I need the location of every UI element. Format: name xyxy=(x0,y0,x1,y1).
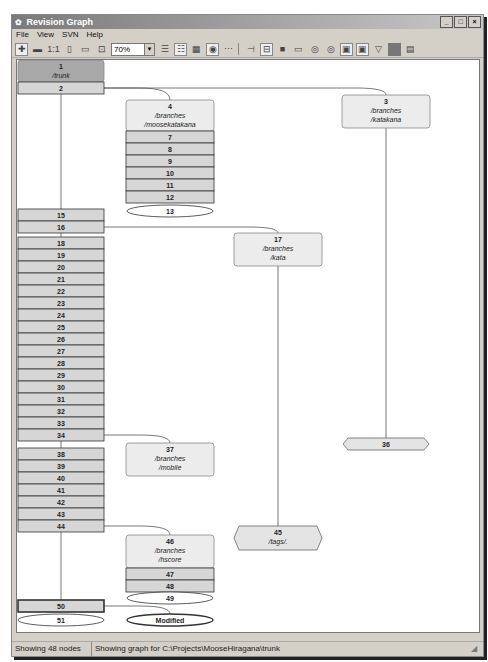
remove-deleted-icon[interactable]: ▭ xyxy=(292,43,305,56)
trunk-revision-node[interactable]: 32 xyxy=(18,405,104,417)
trunk-revision-node[interactable]: 28 xyxy=(18,357,104,369)
status-graph-path: Showing graph for C:\Projects\MooseHirag… xyxy=(92,642,471,656)
resize-grip-icon[interactable]: ◢ xyxy=(471,642,483,656)
branch-revision-node[interactable]: 9 xyxy=(126,155,214,167)
graph-canvas[interactable]: 1/trunk215161819202122232425262728293031… xyxy=(16,59,480,633)
close-button[interactable]: × xyxy=(468,16,481,28)
minimize-button[interactable]: _ xyxy=(440,16,453,28)
branch-tail-tag[interactable]: 36 xyxy=(343,438,429,450)
menu-file[interactable]: File xyxy=(16,29,29,41)
branch-path: /branches xyxy=(154,112,186,119)
align-trees-icon[interactable]: ▦ xyxy=(190,43,203,56)
revision-number: 46 xyxy=(166,538,174,545)
trunk-revision-node[interactable]: 24 xyxy=(18,309,104,321)
trunk-revision-node[interactable]: 33 xyxy=(18,417,104,429)
title-bar[interactable]: ✿ Revision Graph _ □ × xyxy=(12,15,483,29)
revision-graph-window: ✿ Revision Graph _ □ × File View SVN Hel… xyxy=(11,14,484,657)
trunk-revision-node[interactable]: 50 xyxy=(18,600,104,612)
revision-number: 17 xyxy=(274,236,282,243)
branch-head-moosekatakana[interactable]: 4/branches/moosekatakana xyxy=(126,100,214,131)
trunk-revision-node[interactable]: 43 xyxy=(18,508,104,520)
trunk-revision-node[interactable]: 30 xyxy=(18,381,104,393)
revision-graph: 1/trunk215161819202122232425262728293031… xyxy=(17,60,479,632)
trunk-revision-node[interactable]: 22 xyxy=(18,285,104,297)
color-icon[interactable] xyxy=(388,43,401,56)
trunk-head-node[interactable]: 1/trunk xyxy=(18,60,104,82)
group-branches-icon[interactable]: ☰ xyxy=(158,43,171,56)
zoom-height-icon[interactable]: ▯ xyxy=(63,43,76,56)
trunk-revision-node[interactable]: 18 xyxy=(18,237,104,249)
zoom-width-icon[interactable]: ▭ xyxy=(79,43,92,56)
branch-path: /branches xyxy=(262,245,294,252)
trunk-revision-node[interactable]: 41 xyxy=(18,484,104,496)
show-tree-stripes-icon[interactable]: ▣ xyxy=(356,43,369,56)
zoom-100-icon[interactable]: 1:1 xyxy=(47,43,60,56)
fold-tags-icon[interactable]: ⊟ xyxy=(260,43,273,56)
oldest-on-top-icon[interactable]: ☷ xyxy=(174,43,187,56)
trunk-revision-node[interactable]: 31 xyxy=(18,393,104,405)
revision-number: 44 xyxy=(57,523,65,530)
zoom-fit-icon[interactable]: ⊡ xyxy=(95,43,108,56)
branch-head-hscore[interactable]: 46/branches/hscore xyxy=(126,535,214,568)
revision-number: 8 xyxy=(168,146,172,153)
trunk-revision-node[interactable]: 16 xyxy=(18,221,104,233)
working-copy-node[interactable]: 51 xyxy=(18,614,104,626)
branch-path: /branches xyxy=(154,455,186,462)
menu-view[interactable]: View xyxy=(37,29,54,41)
trunk-revision-node[interactable]: 34 xyxy=(18,429,104,441)
menu-svn[interactable]: SVN xyxy=(62,29,78,41)
trunk-revision-node[interactable]: 40 xyxy=(18,472,104,484)
show-wc-mods-icon[interactable]: ◎ xyxy=(324,43,337,56)
trunk-revision-node[interactable]: 19 xyxy=(18,249,104,261)
trunk-revision-node[interactable]: 42 xyxy=(18,496,104,508)
trunk-revision-node[interactable]: 27 xyxy=(18,345,104,357)
revision-number: 23 xyxy=(57,300,65,307)
revision-number: 51 xyxy=(57,617,65,624)
tag-label: 36 xyxy=(382,441,390,448)
show-head-icon[interactable]: ◉ xyxy=(206,43,219,56)
trunk-revision-node[interactable]: 39 xyxy=(18,460,104,472)
trunk-revision-node[interactable]: 23 xyxy=(18,297,104,309)
branch-revision-node[interactable]: 12 xyxy=(126,191,214,203)
trunk-revision-node[interactable]: 26 xyxy=(18,333,104,345)
revision-number: 31 xyxy=(57,396,65,403)
filter-icon[interactable]: ▽ xyxy=(372,43,385,56)
working-copy-modified-node[interactable]: Modified xyxy=(127,614,213,626)
maximize-button[interactable]: □ xyxy=(454,16,467,28)
revision-number: 29 xyxy=(57,372,65,379)
more-icon[interactable]: ⋯ xyxy=(222,43,235,56)
revision-number: 18 xyxy=(57,240,65,247)
branch-head-mobile[interactable]: 37/branches/mobile xyxy=(126,443,214,476)
trunk-revision-node[interactable]: 25 xyxy=(18,321,104,333)
exact-copy-source-icon[interactable]: ⊣ xyxy=(244,43,257,56)
trunk-revision-node[interactable]: 29 xyxy=(18,369,104,381)
tag-node[interactable]: 45/tags/. xyxy=(234,526,322,550)
trunk-revision-node[interactable]: 2 xyxy=(18,82,104,94)
menu-help[interactable]: Help xyxy=(87,29,103,41)
branch-revision-node[interactable]: 11 xyxy=(126,179,214,191)
branch-head-katakana[interactable]: 3/branches/katakana xyxy=(342,95,430,128)
trunk-revision-node[interactable]: 44 xyxy=(18,520,104,532)
zoom-select[interactable]: 70% ▼ xyxy=(111,43,155,56)
reduce-cross-lines-icon[interactable]: ■ xyxy=(276,43,289,56)
show-wc-rev-icon[interactable]: ◎ xyxy=(308,43,321,56)
branch-tail-node[interactable]: 13 xyxy=(127,205,213,217)
legend-icon[interactable]: ▤ xyxy=(404,43,417,56)
trunk-revision-node[interactable]: 21 xyxy=(18,273,104,285)
branch-revision-node[interactable]: 10 xyxy=(126,167,214,179)
trunk-revision-node[interactable]: 38 xyxy=(18,448,104,460)
revision-number: 4 xyxy=(168,103,172,110)
branch-revision-node[interactable]: 48 xyxy=(126,580,214,592)
branch-revision-node[interactable]: 47 xyxy=(126,568,214,580)
trunk-revision-node[interactable]: 15 xyxy=(18,209,104,221)
trunk-revision-node[interactable]: 20 xyxy=(18,261,104,273)
revision-number: 25 xyxy=(57,324,65,331)
branch-head-kata[interactable]: 17/branches/kata xyxy=(234,233,322,266)
zoom-out-icon[interactable]: ▬ xyxy=(31,43,44,56)
zoom-in-icon[interactable]: ✚ xyxy=(15,43,28,56)
branch-revision-node[interactable]: 8 xyxy=(126,143,214,155)
show-diff-paths-icon[interactable]: ▣ xyxy=(340,43,353,56)
branch-path: /hscore xyxy=(158,556,182,563)
branch-tail-node[interactable]: 49 xyxy=(127,592,213,604)
branch-revision-node[interactable]: 7 xyxy=(126,131,214,143)
